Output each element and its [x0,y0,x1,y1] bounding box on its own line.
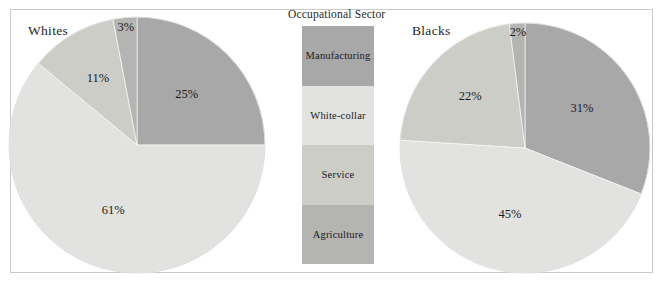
pie-slice-label-white-collar: 61% [102,203,125,217]
legend-label-manufacturing: Manufacturing [306,50,371,61]
legend-swatch-stack: Manufacturing White-collar Service Agric… [302,26,374,264]
pie-slices-whites [9,17,265,273]
pie-slice-label-manufacturing: 25% [175,87,198,101]
legend-item-agriculture[interactable]: Agriculture [302,205,374,265]
pie-chart-whites: 25%61%11%3% [0,0,285,285]
legend-item-service[interactable]: Service [302,145,374,205]
pie-slice-manufacturing[interactable] [137,17,265,145]
pie-slice-label-white-collar: 45% [499,207,522,221]
pie-slice-label-service: 22% [459,89,482,103]
pie-chart-blacks: 31%45%22%2% [390,0,665,285]
legend-label-agriculture: Agriculture [313,229,364,240]
figure-canvas: Whites 25%61%11%3% Occupational Sector M… [0,0,665,285]
pie-slice-label-agriculture: 3% [118,20,135,34]
legend-item-manufacturing[interactable]: Manufacturing [302,26,374,86]
legend-label-white-collar: White-collar [310,110,365,121]
legend-item-white-collar[interactable]: White-collar [302,86,374,146]
legend: Occupational Sector Manufacturing White-… [288,8,384,270]
legend-label-service: Service [322,169,355,180]
pie-panel-whites: Whites 25%61%11%3% [0,0,285,285]
pie-slice-label-service: 11% [87,71,109,85]
pie-panel-blacks: Blacks 31%45%22%2% [390,0,665,285]
pie-slice-service[interactable] [400,24,525,148]
pie-slice-label-manufacturing: 31% [570,101,593,115]
pie-slices-blacks [400,23,650,273]
legend-title: Occupational Sector [288,8,384,20]
pie-slice-label-agriculture: 2% [509,25,526,39]
